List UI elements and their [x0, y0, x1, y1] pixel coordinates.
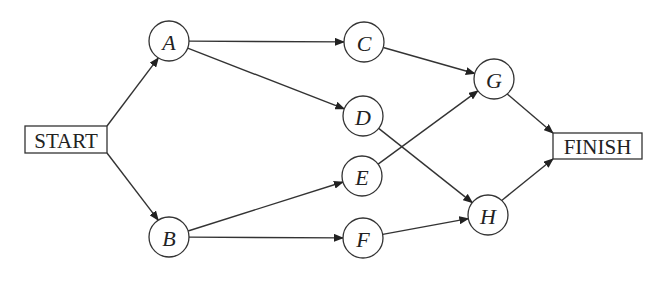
activity-node-g: G — [474, 59, 514, 99]
edge-a-to-d-arrow — [188, 48, 345, 109]
activity-node-f: F — [343, 218, 383, 258]
node-label: H — [479, 204, 497, 229]
edge-start-to-b-arrow — [107, 153, 158, 220]
edge-b-to-f-arrow — [189, 237, 343, 238]
edge-b-to-e-arrow — [188, 182, 343, 231]
activity-nodes-layer: ABCDEFGH — [149, 21, 514, 258]
activity-node-h: H — [468, 195, 508, 235]
start-label: START — [34, 129, 98, 153]
edge-start-to-a-arrow — [107, 58, 158, 126]
node-label: A — [160, 30, 176, 55]
edge-e-to-g-arrow — [378, 91, 478, 164]
edge-d-to-h-arrow — [379, 128, 473, 202]
node-label: F — [355, 227, 370, 252]
terminal-boxes-layer: START FINISH — [25, 126, 642, 159]
node-label: E — [354, 165, 369, 190]
edge-h-to-finish-arrow — [502, 159, 553, 200]
edge-g-to-finish-arrow — [507, 94, 553, 133]
activity-node-a: A — [149, 21, 189, 61]
activity-node-e: E — [342, 156, 382, 196]
finish-box: FINISH — [553, 133, 642, 159]
activity-node-d: D — [343, 96, 383, 136]
node-label: C — [357, 31, 372, 56]
activity-network-diagram: START FINISH ABCDEFGH — [0, 0, 659, 282]
edge-f-to-h-arrow — [383, 219, 469, 235]
node-label: G — [486, 68, 502, 93]
node-label: B — [162, 226, 175, 251]
activity-node-b: B — [149, 217, 189, 257]
node-label: D — [354, 105, 371, 130]
start-box: START — [25, 126, 107, 153]
edge-a-to-c-arrow — [189, 41, 344, 42]
activity-node-c: C — [344, 22, 384, 62]
edge-c-to-g-arrow — [383, 47, 475, 73]
finish-label: FINISH — [564, 135, 632, 159]
